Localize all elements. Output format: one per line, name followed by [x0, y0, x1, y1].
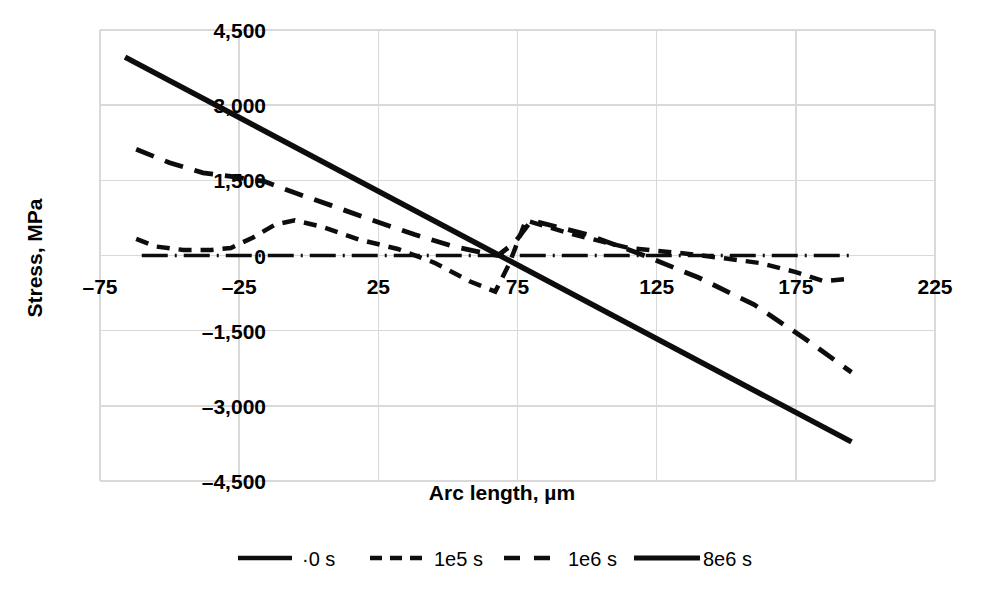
legend-label-0[interactable]: ·0 s	[302, 548, 335, 570]
legend-label-3[interactable]: 8e6 s	[703, 548, 752, 570]
legend-label-2[interactable]: 1e6 s	[568, 548, 617, 570]
y-tick-label: –3,000	[202, 395, 266, 418]
x-tick-label: –75	[82, 275, 117, 298]
x-tick-label: 25	[367, 275, 391, 298]
chart-container: 4,5003,0001,5000–1,500–3,000–4,500 –75–2…	[0, 0, 1000, 601]
x-axis-title: Arc length, µm	[429, 481, 575, 504]
chart-background	[0, 0, 1000, 601]
x-tick-label: –25	[222, 275, 257, 298]
y-axis-title: Stress, MPa	[23, 198, 46, 317]
x-tick-label: 125	[639, 275, 674, 298]
y-tick-label: 4,500	[213, 19, 266, 42]
x-tick-label: 225	[917, 275, 952, 298]
x-tick-label: 75	[506, 275, 530, 298]
legend-label-1[interactable]: 1e5 s	[434, 548, 483, 570]
y-tick-label: –1,500	[202, 320, 266, 343]
stress-vs-arc-length-chart: 4,5003,0001,5000–1,500–3,000–4,500 –75–2…	[0, 0, 1000, 601]
x-tick-label: 175	[778, 275, 813, 298]
y-tick-label: –4,500	[202, 470, 266, 493]
